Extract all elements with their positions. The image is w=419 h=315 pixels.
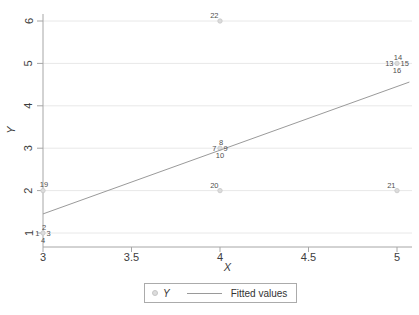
- data-point-label: 22: [210, 11, 218, 20]
- y-tick-label: 6: [23, 18, 35, 24]
- legend-scatter-label: Y: [163, 288, 170, 299]
- data-point-label: 3: [47, 229, 51, 238]
- data-point-label: 21: [387, 181, 395, 190]
- data-point-label: 15: [401, 59, 409, 68]
- plot-area: 12345633.544.551234789101314151619202122: [0, 0, 419, 280]
- legend: Y Fitted values: [144, 283, 297, 303]
- data-point-label: 19: [40, 180, 48, 189]
- y-tick-label: 4: [23, 103, 35, 109]
- data-point-label: 4: [41, 236, 45, 245]
- y-tick-label: 5: [23, 60, 35, 66]
- fitted-line-sample-icon: [187, 293, 222, 294]
- y-tick-label: 3: [23, 145, 35, 151]
- y-tick-label: 1: [23, 230, 35, 236]
- stata-scatter-figure: 12345633.544.551234789101314151619202122…: [0, 0, 419, 315]
- legend-line-label: Fitted values: [231, 288, 288, 299]
- data-point-label: 2: [42, 223, 46, 232]
- data-point-label: 1: [35, 229, 39, 238]
- data-point-label: 8: [219, 138, 223, 147]
- x-axis-title: X: [43, 261, 412, 273]
- y-tick-label: 2: [23, 188, 35, 194]
- scatter-marker-icon: [152, 290, 158, 296]
- y-axis-title: Y: [1, 120, 21, 140]
- data-point-label: 20: [210, 181, 218, 190]
- data-point-label: 10: [216, 151, 224, 160]
- data-point-label: 16: [393, 66, 401, 75]
